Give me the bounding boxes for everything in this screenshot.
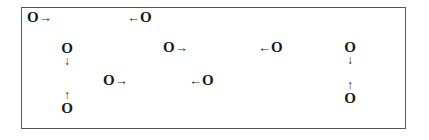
particle-up-1: ↑O bbox=[60, 90, 74, 116]
particle-left-3: ←O bbox=[189, 73, 214, 88]
particle-symbol: O bbox=[103, 72, 115, 88]
particle-right-1: O→ bbox=[27, 10, 52, 25]
particle-left-2: ←O bbox=[258, 40, 283, 55]
particle-up-2: ↑O bbox=[343, 80, 357, 106]
arrow-down-icon: ↓ bbox=[347, 55, 353, 66]
particle-right-2: O→ bbox=[163, 40, 188, 55]
particle-right-3: O→ bbox=[103, 73, 128, 88]
arrow-right-icon: → bbox=[115, 73, 128, 88]
particle-left-1: ←O bbox=[127, 10, 152, 25]
arrow-left-icon: ← bbox=[127, 10, 140, 25]
arrow-down-icon: ↓ bbox=[64, 56, 70, 67]
particle-down-2: O↓ bbox=[343, 40, 357, 66]
particle-symbol: O bbox=[61, 101, 73, 116]
particle-symbol: O bbox=[27, 9, 39, 25]
particle-symbol: O bbox=[271, 39, 283, 55]
particle-symbol: O bbox=[344, 91, 356, 106]
particle-symbol: O bbox=[163, 39, 175, 55]
particle-symbol: O bbox=[202, 72, 214, 88]
arrow-right-icon: → bbox=[39, 10, 52, 25]
diagram-frame bbox=[21, 7, 406, 129]
particle-down-1: O↓ bbox=[60, 41, 74, 67]
particle-symbol: O bbox=[140, 9, 152, 25]
arrow-left-icon: ← bbox=[189, 73, 202, 88]
arrow-left-icon: ← bbox=[258, 40, 271, 55]
arrow-right-icon: → bbox=[175, 40, 188, 55]
